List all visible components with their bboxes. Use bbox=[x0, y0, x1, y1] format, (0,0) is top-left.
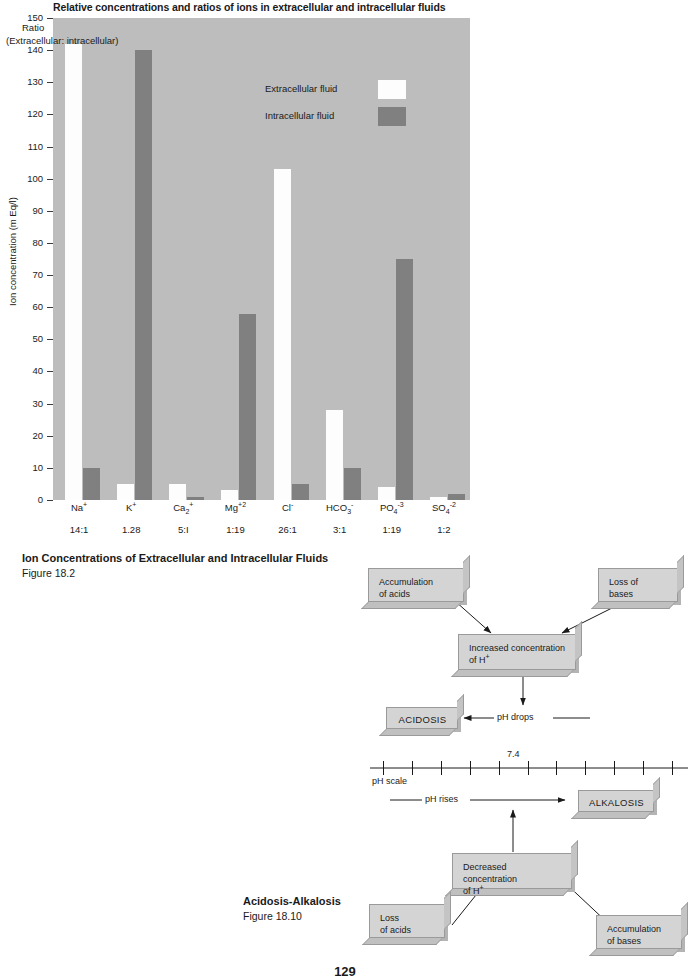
box-loss-of-bases: Loss of bases bbox=[598, 568, 678, 602]
ph-tick bbox=[528, 761, 529, 775]
x-category-Mg+2: Mg+21:19 bbox=[209, 502, 261, 536]
y-tick-label: 90 bbox=[32, 206, 43, 216]
bar-Ca+2-extracellular bbox=[169, 484, 186, 500]
bar-PO4-3-intracellular bbox=[396, 259, 413, 500]
x-category-Ca+2: Ca2+5:I bbox=[157, 502, 209, 536]
y-tick-label: 20 bbox=[32, 431, 43, 441]
ratio-value: 1.28 bbox=[105, 524, 157, 536]
bar-Cl--intracellular bbox=[292, 484, 309, 500]
chart-plot-area: Extracellular fluid Intracellular fluid bbox=[53, 18, 470, 500]
acidosis-alkalosis-figure: Accumulation of acids Loss of bases Incr… bbox=[0, 560, 690, 978]
box-loss-of-acids-line2: of acids bbox=[380, 925, 411, 935]
box-accumulation-of-acids: Accumulation of acids bbox=[368, 568, 464, 602]
box-acidosis-label: ACIDOSIS bbox=[399, 714, 447, 725]
bar-Mg+2-intracellular bbox=[239, 314, 256, 500]
flow-caption-title: Acidosis-Alkalosis bbox=[243, 895, 341, 908]
legend-item-extracellular: Extracellular fluid bbox=[265, 80, 410, 107]
y-tick-label: 120 bbox=[27, 110, 43, 120]
legend-item-intracellular: Intracellular fluid bbox=[265, 107, 410, 134]
chart-legend: Extracellular fluid Intracellular fluid bbox=[265, 80, 410, 134]
bar-K+-extracellular bbox=[117, 484, 134, 500]
ratio-value: 5:I bbox=[157, 524, 209, 536]
ion-label: Na+ bbox=[53, 502, 105, 514]
x-category-PO4-3: PO4-31:19 bbox=[366, 502, 418, 536]
bar-Cl--extracellular bbox=[274, 169, 291, 500]
bar-HCO3--intracellular bbox=[344, 468, 361, 500]
ratio-value: 1:19 bbox=[209, 524, 261, 536]
ph-tick bbox=[672, 761, 673, 775]
box-loss-of-bases-line2: bases bbox=[609, 589, 633, 599]
label-ph-drops: pH drops bbox=[497, 712, 534, 722]
legend-swatch-extracellular bbox=[378, 80, 406, 99]
x-category-HCO3-: HCO3-3:1 bbox=[314, 502, 366, 536]
box-decreased-concentration: Decreased concentration of H+ bbox=[452, 853, 572, 889]
legend-swatch-intracellular bbox=[378, 107, 406, 126]
ph-tick bbox=[643, 761, 644, 775]
box-accumulation-of-acids-line1: Accumulation bbox=[379, 577, 433, 587]
bar-Mg+2-extracellular bbox=[221, 490, 238, 500]
bar-Ca+2-intracellular bbox=[187, 497, 204, 500]
label-ph-value: 7.4 bbox=[507, 749, 520, 759]
box-alkalosis-label: ALKALOSIS bbox=[589, 797, 644, 808]
ion-label: Mg+2 bbox=[209, 502, 261, 514]
bar-K+-intracellular bbox=[135, 50, 152, 500]
ratio-value: 1:19 bbox=[366, 524, 418, 536]
bar-SO4-2-extracellular bbox=[430, 497, 447, 500]
y-axis: Ion concentration (m Eq/l) 0102030405060… bbox=[0, 18, 53, 500]
x-category-Cl-: Cl-26:1 bbox=[262, 502, 314, 536]
y-tick-label: 110 bbox=[28, 142, 43, 152]
box-alkalosis: ALKALOSIS bbox=[578, 790, 654, 812]
x-category-K+: K+1.28 bbox=[105, 502, 157, 536]
box-decreased-concentration-line2: of H+ bbox=[463, 886, 484, 896]
ion-label: PO4-3 bbox=[366, 502, 418, 514]
flow-arrows bbox=[0, 560, 690, 978]
box-accumulation-of-bases: Accumulation of bases bbox=[596, 915, 682, 949]
y-tick-label: 100 bbox=[27, 174, 43, 184]
label-ph-scale: pH scale bbox=[372, 776, 407, 786]
y-tick-label: 50 bbox=[32, 335, 43, 345]
box-accumulation-of-bases-line1: Accumulation bbox=[607, 924, 661, 934]
box-accumulation-of-acids-line2: of acids bbox=[379, 589, 410, 599]
bar-SO4-2-intracellular bbox=[448, 494, 465, 500]
box-accumulation-of-bases-line2: of bases bbox=[607, 936, 641, 946]
ph-tick bbox=[412, 761, 413, 775]
flow-caption-figure: Figure 18.10 bbox=[243, 909, 341, 923]
y-tick-mark bbox=[47, 500, 53, 501]
ion-concentration-chart-figure: Relative concentrations and ratios of io… bbox=[0, 0, 690, 560]
bar-Na+-extracellular bbox=[65, 44, 82, 500]
bar-Na+-intracellular bbox=[83, 468, 100, 500]
ion-label: HCO3- bbox=[314, 502, 366, 514]
bar-PO4-3-extracellular bbox=[378, 487, 395, 500]
ph-tick bbox=[383, 761, 384, 775]
x-category-Na+: Na+14:1 bbox=[53, 502, 105, 536]
y-tick-label: 70 bbox=[32, 270, 43, 280]
box-acidosis: ACIDOSIS bbox=[386, 707, 458, 729]
y-axis-title: Ion concentration (m Eq/l) bbox=[7, 87, 18, 417]
bar-HCO3--extracellular bbox=[326, 410, 343, 500]
ph-tick bbox=[441, 761, 442, 775]
box-increased-concentration: Increased concentration of H+ bbox=[458, 634, 576, 670]
ratio-value: 14:1 bbox=[53, 524, 105, 536]
box-loss-of-acids-line1: Loss bbox=[380, 913, 399, 923]
y-tick-label: 130 bbox=[27, 78, 43, 88]
y-tick-label: 80 bbox=[32, 238, 43, 248]
ph-tick bbox=[470, 761, 471, 775]
ph-tick bbox=[556, 761, 557, 775]
ion-label: K+ bbox=[105, 502, 157, 514]
ion-label: Ca2+ bbox=[157, 502, 209, 514]
legend-label-intracellular: Intracellular fluid bbox=[265, 110, 334, 121]
ph-tick bbox=[499, 761, 500, 775]
ratio-value: 1:2 bbox=[418, 524, 470, 536]
box-increased-concentration-line2: of H+ bbox=[469, 655, 490, 665]
box-decreased-concentration-line1: Decreased concentration bbox=[463, 862, 517, 884]
x-category-SO4-2: SO4-21:2 bbox=[418, 502, 470, 536]
label-ph-rises: pH rises bbox=[425, 794, 458, 804]
y-tick-label: 10 bbox=[32, 463, 43, 473]
ph-tick bbox=[614, 761, 615, 775]
ratio-label: Ratio bbox=[22, 22, 44, 33]
y-tick-label: 60 bbox=[32, 302, 43, 312]
y-tick-label: 40 bbox=[32, 367, 43, 377]
y-tick-label: 140 bbox=[27, 45, 43, 55]
y-tick-label: 30 bbox=[32, 399, 43, 409]
ion-label: SO4-2 bbox=[418, 502, 470, 514]
